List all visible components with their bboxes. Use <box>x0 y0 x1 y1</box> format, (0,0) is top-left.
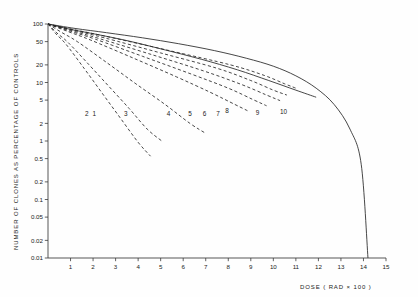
y-tick-label: 0.2 <box>34 178 43 185</box>
curve-label-5: 5 <box>188 110 192 117</box>
y-tick-label: 100 <box>33 20 44 27</box>
x-tick-label: 3 <box>114 263 118 270</box>
curve-label-9: 9 <box>256 109 260 116</box>
x-tick-label: 7 <box>204 263 208 270</box>
x-tick-label: 11 <box>293 263 300 270</box>
curve-label-2: 2 <box>85 110 89 117</box>
y-tick-label: 0.1 <box>34 196 43 203</box>
y-tick-label: 5 <box>40 96 44 103</box>
chart-canvas: 1005020105210.50.20.10.050.020.011234567… <box>0 0 418 297</box>
figure-survival-curves: 1005020105210.50.20.10.050.020.011234567… <box>0 0 418 297</box>
x-tick-label: 8 <box>227 263 231 270</box>
curve-6 <box>48 24 280 101</box>
curve-label-6: 6 <box>203 110 207 117</box>
curve-10 <box>48 24 368 258</box>
x-tick-label: 1 <box>69 263 73 270</box>
curve-4 <box>48 24 247 111</box>
curve-label-4: 4 <box>167 110 171 117</box>
y-axis-title: NUMBER OF CLONES AS PERCENTAGE OF CONTRO… <box>13 53 19 250</box>
curve-9 <box>48 24 316 97</box>
x-tick-label: 4 <box>136 263 140 270</box>
curve-label-3: 3 <box>124 110 128 117</box>
y-tick-label: 1 <box>40 137 44 144</box>
x-axis-title: DOSE ( RAD × 100 ) <box>300 284 372 290</box>
y-tick-label: 0.02 <box>31 237 44 244</box>
curve-label-8: 8 <box>225 107 229 114</box>
curve-label-1: 1 <box>92 110 96 117</box>
y-tick-label: 0.05 <box>31 213 44 220</box>
x-tick-label: 10 <box>270 263 277 270</box>
y-tick-label: 50 <box>36 38 43 45</box>
axes-layer: 1005020105210.50.20.10.050.020.011234567… <box>31 20 390 270</box>
x-tick-label: 14 <box>360 263 367 270</box>
curve-2 <box>48 24 162 141</box>
x-tick-label: 9 <box>249 263 253 270</box>
y-tick-label: 0.01 <box>31 254 44 261</box>
curve-label-10: 10 <box>280 108 288 115</box>
x-tick-label: 15 <box>383 263 390 270</box>
y-tick-label: 2 <box>40 120 44 127</box>
x-tick-label: 6 <box>181 263 185 270</box>
x-tick-label: 13 <box>337 263 344 270</box>
y-tick-label: 10 <box>36 79 43 86</box>
curve-label-7: 7 <box>216 110 220 117</box>
x-tick-label: 5 <box>159 263 163 270</box>
y-tick-label: 20 <box>36 61 43 68</box>
x-tick-label: 2 <box>91 263 95 270</box>
x-tick-label: 12 <box>315 263 322 270</box>
curves-layer <box>48 24 368 258</box>
y-tick-label: 0.5 <box>34 155 43 162</box>
